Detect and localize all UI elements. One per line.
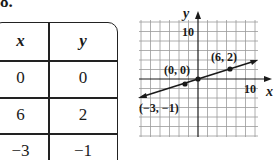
point-6-2 [227,66,232,71]
x-axis-arrow-icon [264,76,272,82]
line-arrow-right-icon [250,60,258,65]
point-label: (6, 2) [211,50,237,64]
line-arrow-left-icon [138,93,147,98]
point-label: (−3, −1) [139,101,179,115]
y-axis-label: y [181,6,190,21]
point-label: (0, 0) [164,63,190,77]
y-axis-arrow-icon [195,11,201,19]
x-axis-label: x [265,84,273,99]
x-tick-label: 10 [244,82,256,96]
point-origin [195,76,200,81]
y-tick-label: 10 [182,25,194,39]
coordinate-graph: y x 10 10 (0, 0) (6, 2) (−3, −1) [0,0,276,160]
point-neg3-neg1 [182,81,187,86]
